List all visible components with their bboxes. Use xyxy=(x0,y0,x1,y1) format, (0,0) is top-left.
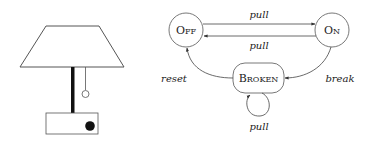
transition-broken-self-loop: pull xyxy=(247,93,269,132)
state-on-label-rest: N xyxy=(333,27,340,36)
lamp-switch-button xyxy=(85,121,95,131)
state-machine: OFF ON BROKEN pull pull xyxy=(161,9,354,132)
state-off-label-rest: FF xyxy=(185,27,197,36)
state-on: ON xyxy=(315,13,349,47)
transition-on-to-broken-label: break xyxy=(325,73,354,84)
transition-on-to-off: pull xyxy=(204,36,316,51)
state-off: OFF xyxy=(169,13,203,47)
transition-off-to-on-label: pull xyxy=(249,9,268,20)
transition-broken-to-off: reset xyxy=(161,48,233,84)
pull-cord-knob xyxy=(82,91,89,98)
lamp-shade xyxy=(20,26,124,67)
transition-on-to-off-label: pull xyxy=(249,40,268,51)
state-broken: BROKEN xyxy=(233,63,284,93)
state-broken-label-rest: ROKEN xyxy=(247,75,278,84)
lamp-pole xyxy=(71,67,75,113)
transition-off-to-on: pull xyxy=(203,9,315,24)
state-on-label-first: O xyxy=(324,24,333,37)
transition-broken-self-loop-label: pull xyxy=(249,121,268,132)
transition-on-to-broken: break xyxy=(285,47,355,84)
state-broken-label-first: B xyxy=(239,72,247,85)
state-off-label-first: O xyxy=(176,24,185,37)
lamp-illustration xyxy=(20,26,124,134)
diagram-canvas: OFF ON BROKEN pull pull xyxy=(0,0,366,145)
transition-broken-to-off-label: reset xyxy=(161,73,188,84)
